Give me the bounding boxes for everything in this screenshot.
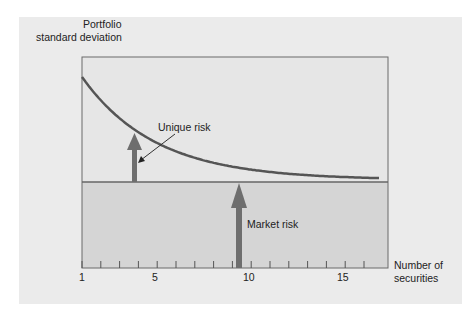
- x-tick-15: 15: [337, 271, 349, 284]
- y-axis-label-line2: standard deviation: [36, 31, 122, 44]
- x-tick-1: 1: [79, 271, 85, 284]
- market-risk-label: Market risk: [247, 218, 298, 231]
- chart-panel: Portfolio standard deviation Unique risk…: [19, 17, 462, 304]
- x-axis-label-line2: securities: [394, 272, 438, 285]
- unique-risk-label: Unique risk: [158, 121, 211, 134]
- unique-risk-region: [82, 57, 388, 182]
- y-axis-label-line1: Portfolio: [83, 18, 122, 31]
- x-tick-10: 10: [243, 271, 255, 284]
- market-risk-region: [82, 182, 388, 268]
- x-tick-5: 5: [152, 271, 158, 284]
- x-axis-label-line1: Number of: [394, 259, 443, 272]
